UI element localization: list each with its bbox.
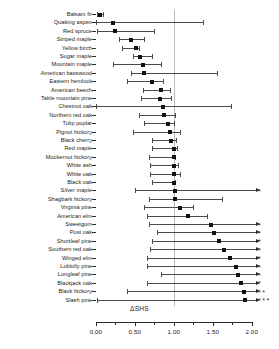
ci-cap-left: [150, 163, 151, 168]
ci-cap-left: [152, 180, 153, 185]
confidence-interval-line: [113, 64, 161, 65]
ci-cap-right: [207, 214, 208, 219]
y-axis-tick: [92, 216, 96, 217]
y-axis-tick: [92, 258, 96, 259]
ci-cap-left: [131, 71, 132, 76]
y-axis-tick: [92, 140, 96, 141]
y-axis-tick: [92, 123, 96, 124]
species-label: Balsam fir: [0, 11, 92, 17]
point-estimate-marker: [129, 38, 133, 42]
point-estimate-marker: [217, 239, 221, 243]
ci-cap-right: [103, 12, 104, 17]
species-label: Longleaf pine: [0, 271, 92, 277]
ci-cap-right: [231, 104, 232, 109]
species-label: Red maple: [0, 145, 92, 151]
confidence-interval-line: [149, 199, 222, 200]
point-estimate-marker: [150, 80, 154, 84]
point-estimate-marker: [168, 130, 172, 134]
confidence-interval-line: [97, 31, 154, 32]
point-estimate-marker: [222, 248, 226, 252]
ci-cap-left: [152, 146, 153, 151]
y-axis-tick: [92, 232, 96, 233]
ci-cap-left: [96, 20, 97, 25]
forest-plot-figure: Balsam firQuaking aspenRed spruceStriped…: [0, 0, 279, 349]
ci-cap-right: [193, 205, 194, 210]
x-axis-label: ΔSHS: [0, 305, 279, 313]
y-axis-tick: [92, 224, 96, 225]
significance-asterisks: *: [258, 247, 262, 254]
ci-cap-left: [149, 197, 150, 202]
x-axis-tick-minor: [232, 322, 233, 325]
y-axis-tick: [92, 199, 96, 200]
y-axis-tick: [92, 98, 96, 99]
y-axis-tick: [92, 266, 96, 267]
point-estimate-marker: [166, 122, 170, 126]
ci-cap-left: [161, 272, 162, 277]
confidence-interval-line: [150, 249, 255, 250]
point-estimate-marker: [162, 113, 166, 117]
confidence-interval-line: [152, 241, 256, 242]
ci-cap-left: [127, 79, 128, 84]
ci-cap-left: [97, 29, 98, 34]
species-label: Black hickory: [0, 288, 92, 294]
y-axis-tick: [92, 81, 96, 82]
y-axis-tick: [92, 39, 96, 40]
ci-cap-left: [97, 298, 98, 303]
ci-cap-right: [139, 46, 140, 51]
y-axis-tick: [92, 56, 96, 57]
x-axis: 0.000.501.001.502.00: [92, 322, 279, 349]
confidence-interval-line: [127, 291, 256, 292]
point-estimate-marker: [169, 139, 173, 143]
point-estimate-marker: [173, 197, 177, 201]
species-label: Striped maple: [0, 36, 92, 42]
x-axis-tick-major: [174, 322, 175, 326]
point-estimate-marker: [186, 214, 190, 218]
point-estimate-marker: [173, 189, 177, 193]
point-estimate-marker: [178, 206, 182, 210]
ci-cap-left: [149, 222, 150, 227]
ci-cap-right: [177, 146, 178, 151]
y-axis-tick: [92, 31, 96, 32]
x-axis-tick-major: [96, 322, 97, 326]
species-label: Mockernut hickory: [0, 154, 92, 160]
significance-asterisks: *: [258, 264, 262, 271]
point-estimate-marker: [172, 172, 176, 176]
confidence-interval-line: [157, 232, 256, 233]
ci-cap-right: [217, 71, 218, 76]
y-axis-tick: [92, 249, 96, 250]
x-axis-tick-label: 0.50: [121, 328, 149, 335]
ci-cap-left: [157, 230, 158, 235]
point-estimate-marker: [172, 181, 176, 185]
y-axis-tick: [92, 174, 96, 175]
species-label: Shagbark hickory: [0, 196, 92, 202]
species-label: American beech: [0, 87, 92, 93]
confidence-interval-line: [127, 81, 163, 82]
ci-cap-right: [144, 37, 145, 42]
y-axis-tick: [92, 190, 96, 191]
point-estimate-marker: [142, 71, 146, 75]
ci-cap-left: [152, 138, 153, 143]
significance-asterisks: *: [258, 280, 262, 287]
ci-cap-right: [163, 79, 164, 84]
y-axis-tick: [92, 207, 96, 208]
x-axis-tick-minor: [193, 322, 194, 325]
ci-cap-left: [149, 155, 150, 160]
ci-cap-right: [170, 88, 171, 93]
confidence-interval-line: [147, 216, 207, 217]
point-estimate-marker: [138, 55, 142, 59]
species-label: Sweetgum: [0, 221, 92, 227]
point-estimate-marker: [98, 13, 102, 17]
y-axis-tick: [92, 148, 96, 149]
ci-cap-left: [144, 121, 145, 126]
species-label: White ash: [0, 162, 92, 168]
point-estimate-marker: [242, 290, 246, 294]
confidence-interval-line: [97, 300, 255, 301]
significance-asterisks: *: [258, 230, 262, 237]
confidence-interval-line: [161, 274, 256, 275]
point-estimate-marker: [111, 21, 115, 25]
ci-cap-left: [139, 113, 140, 118]
ci-cap-left: [127, 289, 128, 294]
ci-cap-left: [147, 264, 148, 269]
point-estimate-marker: [161, 105, 165, 109]
species-label: Table mountain pine: [0, 95, 92, 101]
